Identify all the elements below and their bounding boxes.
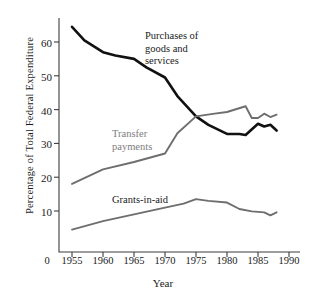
chart-plot-area <box>0 0 326 305</box>
chart-container: Percentage of Total Federal Expenditure … <box>0 0 326 305</box>
